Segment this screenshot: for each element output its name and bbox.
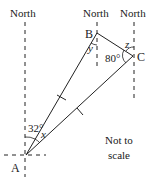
bearing-diagram: North North North A B C 32° x y 80° z No… (0, 0, 152, 177)
point-c-label: C (137, 50, 145, 64)
north-label-c: North (120, 7, 146, 19)
north-label-a: North (10, 7, 36, 19)
angle-label-y: y (87, 42, 93, 54)
tick-mark-ac (77, 108, 83, 115)
angle-arc-a-bearing (25, 137, 35, 139)
angle-label-x: x (40, 128, 46, 140)
angle-arc-c (122, 50, 126, 63)
note-scale: scale (108, 149, 130, 161)
angle-label-z: z (124, 38, 130, 50)
angle-label-80: 80° (105, 52, 120, 64)
note-not-to: Not to (105, 134, 133, 146)
point-a-label: A (11, 161, 20, 175)
side-ab (26, 33, 97, 155)
angle-arc-a-between (35, 139, 40, 143)
point-b-label: B (85, 27, 93, 41)
north-label-b: North (83, 7, 109, 19)
